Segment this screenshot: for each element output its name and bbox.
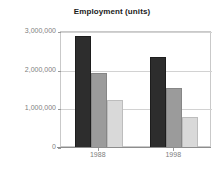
y-axis-tick-label: 0 — [52, 143, 56, 151]
x-axis-tick — [98, 148, 99, 151]
x-axis-tick — [173, 148, 174, 151]
bar — [107, 100, 123, 148]
y-axis-tick-label: 3,000,000 — [25, 27, 56, 35]
bar — [166, 88, 182, 148]
bars-layer — [61, 32, 212, 148]
employment-bar-chart: Employment (units) 01,000,0002,000,0003,… — [0, 0, 224, 180]
x-axis-tick-label: 1998 — [153, 151, 193, 159]
y-axis-tick-label: 1,000,000 — [25, 104, 56, 112]
x-axis-baseline — [57, 147, 211, 148]
bar — [75, 36, 91, 148]
y-axis-tick — [58, 148, 61, 149]
y-axis-tick-label: 2,000,000 — [25, 66, 56, 74]
plot-area — [60, 31, 211, 147]
bar — [182, 117, 198, 148]
x-axis-tick-label: 1988 — [78, 151, 118, 159]
bar — [91, 73, 107, 148]
bar — [150, 57, 166, 148]
y-axis-labels: 01,000,0002,000,0003,000,000 — [0, 0, 56, 180]
